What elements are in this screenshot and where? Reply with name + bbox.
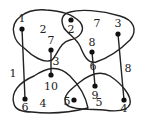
- vertex-3-label: 3: [115, 17, 122, 30]
- vertex-10-label: 10: [44, 80, 58, 93]
- edge-1-line: [22, 29, 25, 99]
- hyperedge-4-label: 4: [40, 97, 47, 110]
- edge-8-label: 8: [125, 62, 132, 75]
- hyperedge-5-label: 5: [96, 96, 103, 109]
- vertex-3-dot: [115, 31, 120, 36]
- vertex-2-label: 2: [68, 23, 75, 36]
- edge-6-label: 6: [90, 60, 97, 73]
- vertex-2-dot: [68, 17, 73, 22]
- vertex-5-dot: [71, 97, 76, 102]
- vertex-9-dot: [92, 83, 97, 88]
- vertex-4-label: 4: [121, 102, 128, 115]
- vertex-1-label: 1: [19, 12, 26, 25]
- vertex-7-label: 7: [48, 34, 55, 47]
- vertex-1-dot: [19, 26, 24, 31]
- hyperedge-2-label: 2: [40, 23, 47, 36]
- vertex-5-label: 5: [64, 95, 71, 108]
- vertex-8-label: 8: [89, 36, 96, 49]
- edge-8-line: [118, 34, 124, 100]
- hypergraph-diagram: 1 2 7 3 8 10 6 9 5 4 2 7 4 5 1 3 6 8: [0, 0, 142, 122]
- edge-3-label: 3: [53, 55, 60, 68]
- hyperedge-7-label: 7: [94, 17, 101, 30]
- vertex-10-dot: [48, 72, 53, 77]
- vertex-6-label: 6: [22, 101, 29, 114]
- vertex-7-dot: [48, 47, 53, 52]
- edge-1-label: 1: [10, 67, 17, 80]
- vertex-8-dot: [89, 49, 94, 54]
